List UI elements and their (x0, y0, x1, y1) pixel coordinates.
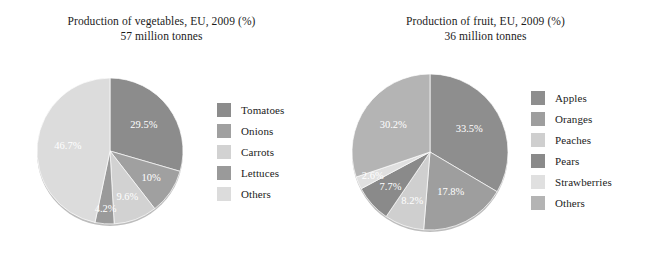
legend-item: Others (531, 192, 612, 213)
legend-label: Pears (555, 155, 579, 167)
legend-item: Tomatoes (217, 99, 284, 120)
fruit-pie-area: 33.5%17.8%8.2%7.7%2.6%30.2% (360, 58, 522, 248)
slice-value-label-carrots: 9.6% (116, 191, 138, 202)
slice-value-label-peaches: 8.2% (401, 195, 423, 206)
fruit-pie-figure: Production of fruit, EU, 2009 (%) 36 mil… (324, 0, 647, 253)
legend-label: Strawberries (555, 176, 612, 188)
legend-swatch-pears (531, 154, 545, 168)
vegetables-pie-area: 29.5%10%9.6%4.2%46.7% (30, 56, 190, 246)
legend-swatch-others (217, 187, 231, 201)
legend-label: Oranges (555, 113, 592, 125)
legend-label: Others (555, 197, 585, 209)
fruit-legend: ApplesOrangesPeachesPearsStrawberriesOth… (531, 87, 612, 213)
vegetables-legend: TomatoesOnionsCarrotsLettucesOthers (217, 99, 284, 204)
legend-item: Lettuces (217, 162, 284, 183)
vegetables-title-line-1: Production of vegetables, EU, 2009 (%) (0, 14, 323, 29)
legend-swatch-strawberries (531, 175, 545, 189)
legend-label: Tomatoes (241, 104, 284, 116)
legend-swatch-lettuces (217, 166, 231, 180)
legend-item: Strawberries (531, 171, 612, 192)
fruit-chart-title: Production of fruit, EU, 2009 (%) 36 mil… (324, 14, 647, 44)
slice-value-label-lettuces: 4.2% (95, 203, 117, 214)
legend-item: Pears (531, 150, 612, 171)
legend-label: Carrots (241, 146, 274, 158)
legend-swatch-peaches (531, 133, 545, 147)
legend-item: Oranges (531, 108, 612, 129)
vegetables-title-line-2: 57 million tonnes (0, 29, 323, 44)
fruit-title-line-1: Production of fruit, EU, 2009 (%) (324, 14, 647, 29)
slice-value-label-apples: 33.5% (456, 123, 483, 134)
legend-swatch-carrots (217, 145, 231, 159)
vegetables-pie-figure: Production of vegetables, EU, 2009 (%) 5… (0, 0, 323, 253)
slice-value-label-pears: 7.7% (380, 181, 402, 192)
legend-item: Others (217, 183, 284, 204)
legend-item: Peaches (531, 129, 612, 150)
legend-swatch-tomatoes (217, 103, 231, 117)
legend-swatch-onions (217, 124, 231, 138)
slice-value-label-tomatoes: 29.5% (130, 119, 157, 130)
legend-item: Onions (217, 120, 284, 141)
slice-value-label-onions: 10% (141, 172, 161, 183)
vegetables-pie-svg: 29.5%10%9.6%4.2%46.7% (30, 56, 190, 246)
legend-label: Others (241, 188, 271, 200)
slice-value-label-others: 46.7% (54, 140, 81, 151)
legend-item: Carrots (217, 141, 284, 162)
legend-swatch-apples (531, 91, 545, 105)
legend-swatch-others (531, 196, 545, 210)
fruit-title-line-2: 36 million tonnes (324, 29, 647, 44)
legend-label: Onions (241, 125, 273, 137)
legend-label: Lettuces (241, 167, 279, 179)
vegetables-chart-title: Production of vegetables, EU, 2009 (%) 5… (0, 14, 323, 44)
legend-label: Apples (555, 92, 587, 104)
slice-value-label-strawberries: 2.6% (362, 170, 384, 181)
legend-label: Peaches (555, 134, 591, 146)
slice-value-label-oranges: 17.8% (437, 186, 464, 197)
fruit-pie-svg: 33.5%17.8%8.2%7.7%2.6%30.2% (360, 58, 522, 248)
slice-value-label-others: 30.2% (380, 119, 407, 130)
legend-item: Apples (531, 87, 612, 108)
legend-swatch-oranges (531, 112, 545, 126)
